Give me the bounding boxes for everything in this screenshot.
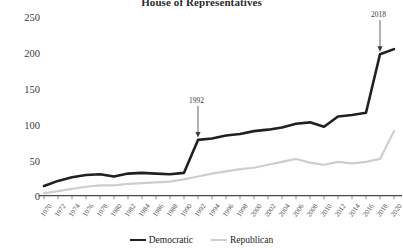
chart-container: House of Representatives 250 200 150 100… bbox=[0, 0, 403, 251]
legend-swatch-republican bbox=[211, 239, 227, 241]
x-axis-labels: 1970197219741976197819801982198419861988… bbox=[0, 0, 403, 251]
legend-label-republican: Republican bbox=[230, 235, 273, 245]
annotation-label-1992: 1992 bbox=[189, 97, 204, 105]
chart-legend: Democratic Republican bbox=[0, 235, 403, 245]
annotation-label-2018: 2018 bbox=[371, 11, 386, 19]
legend-item-democratic[interactable]: Democratic bbox=[130, 235, 193, 245]
legend-swatch-democratic bbox=[130, 239, 146, 241]
legend-label-democratic: Democratic bbox=[149, 235, 193, 245]
legend-item-republican[interactable]: Republican bbox=[211, 235, 273, 245]
